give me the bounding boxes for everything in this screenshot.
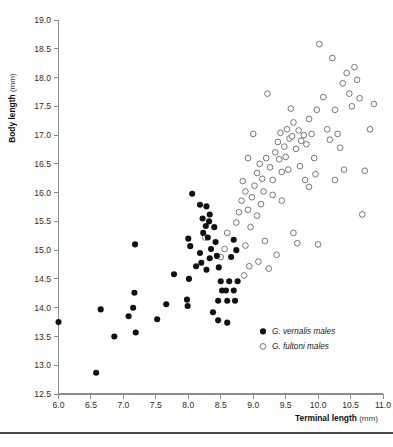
data-point-open xyxy=(266,266,272,272)
data-point-open xyxy=(283,154,289,160)
data-point-open xyxy=(317,41,323,47)
data-point-filled xyxy=(213,239,219,245)
data-point-open xyxy=(297,163,303,169)
data-point-open xyxy=(256,259,262,265)
x-tick-label: 10.0 xyxy=(310,400,327,410)
data-point-open xyxy=(302,177,308,183)
data-point-filled xyxy=(132,241,138,247)
legend-label: G. fultoni males xyxy=(272,342,329,351)
data-point-open xyxy=(272,149,278,155)
data-point-open xyxy=(330,55,336,61)
x-tick-label: 11.0 xyxy=(375,400,391,410)
data-point-open xyxy=(246,263,252,269)
data-point-open xyxy=(359,212,365,218)
data-point-open xyxy=(239,198,245,204)
data-point-filled xyxy=(197,202,203,208)
data-point-filled xyxy=(193,263,199,269)
data-point-open xyxy=(276,156,282,162)
y-axis: 19.018.518.017.517.016.516.015.515.014.5… xyxy=(34,15,58,399)
data-point-open xyxy=(254,170,260,176)
data-point-open xyxy=(291,120,297,126)
data-point-filled xyxy=(210,309,216,315)
data-point-filled xyxy=(223,287,229,293)
data-point-filled xyxy=(198,260,204,266)
data-point-open xyxy=(245,207,251,213)
data-point-open xyxy=(254,213,260,219)
data-point-filled xyxy=(231,287,237,293)
y-tick-label: 15.0 xyxy=(34,245,51,255)
data-point-open xyxy=(243,243,249,249)
y-tick-label: 14.5 xyxy=(34,274,51,284)
data-point-open xyxy=(298,138,304,144)
data-point-filled xyxy=(215,298,221,304)
data-point-open xyxy=(309,131,315,137)
data-series-g-vernalis-males xyxy=(55,191,240,376)
legend: G. vernalis malesG. fultoni males xyxy=(260,327,335,351)
data-point-filled xyxy=(98,306,104,312)
x-axis: 6.06.57.07.58.08.59.09.510.010.511.0 xyxy=(53,394,392,410)
data-point-filled xyxy=(184,297,190,303)
x-tick-label: 9.5 xyxy=(280,400,292,410)
data-point-filled xyxy=(206,218,212,224)
data-point-open xyxy=(332,177,338,183)
data-point-open xyxy=(250,131,256,137)
x-axis-title: Terminal length (mm) xyxy=(295,413,378,423)
data-point-open xyxy=(240,178,246,184)
data-point-open xyxy=(279,198,285,204)
x-tick-label: 10.5 xyxy=(342,400,359,410)
data-point-open xyxy=(284,126,290,132)
data-point-open xyxy=(282,144,288,150)
legend-marker-filled xyxy=(260,328,266,334)
data-point-open xyxy=(367,126,373,132)
y-tick-label: 17.5 xyxy=(34,101,51,111)
data-point-open xyxy=(293,146,299,152)
data-point-filled xyxy=(133,329,139,335)
data-point-filled xyxy=(207,211,213,217)
data-point-open xyxy=(261,189,267,195)
data-point-filled xyxy=(231,237,237,243)
data-point-filled xyxy=(189,191,195,197)
x-tick-label: 8.5 xyxy=(215,400,227,410)
data-point-open xyxy=(362,168,368,174)
x-tick-label: 7.5 xyxy=(150,400,162,410)
data-point-open xyxy=(270,192,276,198)
data-point-open xyxy=(257,161,263,167)
data-point-open xyxy=(262,238,268,244)
data-point-filled xyxy=(171,271,177,277)
data-point-open xyxy=(301,132,307,138)
data-point-filled xyxy=(111,333,117,339)
data-point-filled xyxy=(208,246,214,252)
data-point-open xyxy=(274,252,280,258)
data-point-open xyxy=(296,128,302,134)
data-point-open xyxy=(332,107,338,113)
y-tick-label: 19.0 xyxy=(34,15,51,25)
data-point-open xyxy=(267,164,273,170)
data-point-filled xyxy=(130,305,136,311)
data-point-filled xyxy=(228,254,234,260)
data-point-filled xyxy=(218,278,224,284)
data-point-open xyxy=(346,91,352,97)
data-point-open xyxy=(275,139,281,145)
x-tick-label: 6.0 xyxy=(53,400,65,410)
legend-label: G. vernalis males xyxy=(272,327,335,336)
data-point-filled xyxy=(55,319,61,325)
data-point-filled xyxy=(197,250,203,256)
y-tick-label: 13.0 xyxy=(34,360,51,370)
x-tick-label: 8.0 xyxy=(182,400,194,410)
data-point-open xyxy=(294,240,300,246)
data-point-open xyxy=(279,169,285,175)
data-point-open xyxy=(313,171,319,177)
data-point-filled xyxy=(93,370,99,376)
data-point-open xyxy=(306,116,312,122)
data-point-open xyxy=(352,64,358,70)
bottom-rule-divider xyxy=(0,432,393,434)
data-point-filled xyxy=(203,267,209,273)
data-point-filled xyxy=(185,236,191,242)
data-point-open xyxy=(222,246,228,252)
data-point-open xyxy=(278,130,284,136)
data-point-open xyxy=(306,184,312,190)
data-point-filled xyxy=(163,301,169,307)
data-point-open xyxy=(335,131,341,137)
data-point-open xyxy=(304,141,310,147)
data-point-open xyxy=(265,91,271,97)
